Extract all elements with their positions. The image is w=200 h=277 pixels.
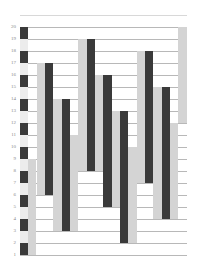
striped-segment [20, 219, 28, 231]
range-bar-light [137, 51, 145, 183]
striped-segment [20, 75, 28, 87]
gridline [20, 255, 187, 256]
y-tick-label: 20 [6, 24, 16, 30]
striped-segment [20, 243, 28, 255]
y-tick-label: 19 [6, 36, 16, 42]
y-tick-label: 4 [6, 216, 16, 222]
gridline [20, 51, 187, 52]
y-tick-label: 9 [6, 156, 16, 162]
y-tick-label: 8 [6, 168, 16, 174]
y-tick-label: 18 [6, 48, 16, 54]
range-bar-light [128, 147, 137, 243]
striped-segment [20, 27, 28, 39]
striped-segment [20, 135, 28, 147]
range-bar-light [95, 75, 103, 171]
gridline [20, 27, 187, 28]
y-tick-label: 15 [6, 84, 16, 90]
striped-segment [20, 87, 28, 99]
range-bar-dark [87, 39, 95, 171]
range-bar-chart: 2019181716151413121110987654321 [0, 0, 200, 277]
striped-segment [20, 159, 28, 171]
y-tick-label: 5 [6, 204, 16, 210]
y-tick-label: 10 [6, 144, 16, 150]
y-tick-label: 16 [6, 72, 16, 78]
range-bar-dark [162, 87, 170, 219]
striped-segment [20, 39, 28, 51]
range-bar-dark [45, 63, 53, 195]
range-bar-light [37, 63, 45, 195]
y-tick-label: 2 [6, 240, 16, 246]
y-tick-label: 3 [6, 228, 16, 234]
range-bar-light [28, 159, 36, 255]
range-bar-dark [103, 75, 112, 207]
gridline [20, 219, 187, 220]
striped-segment [20, 111, 28, 123]
gridline [20, 39, 187, 40]
striped-segment [20, 147, 28, 159]
y-tick-label: 7 [6, 180, 16, 186]
striped-segment [20, 63, 28, 75]
striped-segment [20, 195, 28, 207]
range-bar-dark [120, 111, 128, 243]
gridline [20, 231, 187, 232]
range-bar-light [112, 111, 120, 207]
y-tick-label: 6 [6, 192, 16, 198]
y-tick-label: 13 [6, 108, 16, 114]
striped-segment [20, 207, 28, 219]
y-tick-label: 1 [6, 252, 16, 258]
range-bar-light [178, 27, 187, 123]
gridline [20, 243, 187, 244]
striped-segment [20, 183, 28, 195]
range-bar-dark [62, 99, 70, 231]
striped-segment [20, 231, 28, 243]
range-bar-light [78, 39, 87, 171]
striped-segment [20, 99, 28, 111]
top-border [20, 15, 187, 16]
y-tick-label: 17 [6, 60, 16, 66]
range-bar-light [53, 99, 62, 231]
striped-segment [20, 123, 28, 135]
range-bar-light [70, 135, 78, 231]
y-tick-label: 11 [6, 132, 16, 138]
striped-segment [20, 171, 28, 183]
y-tick-label: 14 [6, 96, 16, 102]
range-bar-light [153, 87, 162, 219]
range-bar-light [170, 123, 178, 219]
striped-segment [20, 51, 28, 63]
range-bar-dark [145, 51, 153, 183]
y-tick-label: 12 [6, 120, 16, 126]
